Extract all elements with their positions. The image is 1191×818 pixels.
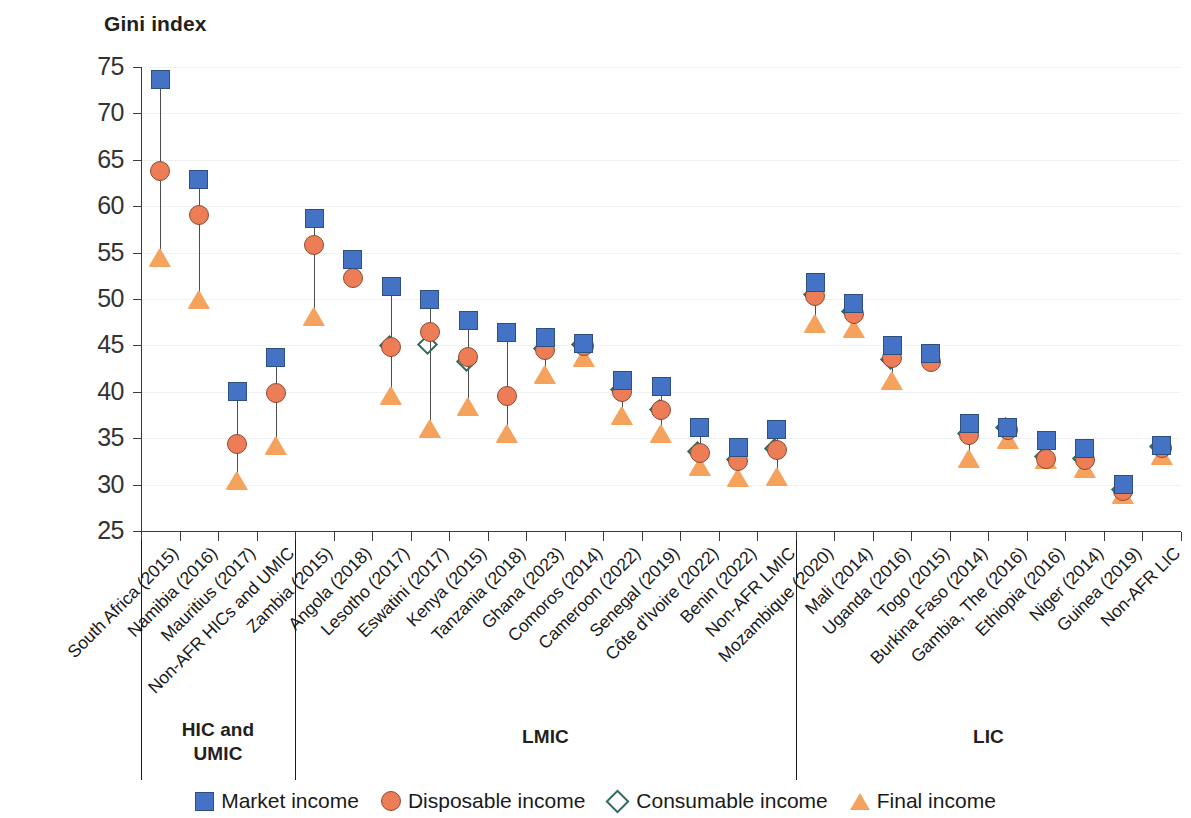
- x-tick-mark: [218, 532, 219, 541]
- legend-triangle-icon: [850, 793, 870, 810]
- marker-disposable-income: [227, 434, 247, 454]
- marker-market-income: [1152, 436, 1171, 455]
- marker-market-income: [921, 344, 940, 363]
- y-tick-label: 70: [84, 100, 124, 125]
- marker-market-income: [1114, 475, 1133, 494]
- legend-diamond-icon: [606, 789, 630, 813]
- marker-disposable-income: [458, 347, 478, 367]
- x-tick-mark: [334, 532, 335, 541]
- x-tick-mark: [719, 532, 720, 541]
- y-tick-label: 25: [84, 518, 124, 543]
- marker-market-income: [151, 70, 170, 89]
- marker-market-income: [960, 414, 979, 433]
- y-tick-label: 35: [84, 425, 124, 450]
- marker-disposable-income: [651, 400, 671, 420]
- x-tick-mark: [372, 532, 373, 541]
- gridline: [142, 160, 1181, 161]
- marker-final-income: [149, 248, 171, 267]
- marker-market-income: [228, 382, 247, 401]
- y-tick-mark: [133, 392, 142, 393]
- marker-final-income: [419, 419, 441, 438]
- marker-final-income: [188, 290, 210, 309]
- y-tick-mark: [133, 438, 142, 439]
- x-tick-mark: [911, 532, 912, 541]
- x-tick-mark: [180, 532, 181, 541]
- connector-line: [314, 218, 315, 316]
- gridline: [142, 253, 1181, 254]
- x-tick-mark: [680, 532, 681, 541]
- marker-market-income: [1037, 431, 1056, 450]
- marker-market-income: [844, 294, 863, 313]
- marker-disposable-income: [1036, 449, 1056, 469]
- connector-line: [507, 332, 508, 433]
- y-tick-mark: [133, 67, 142, 68]
- marker-final-income: [457, 397, 479, 416]
- x-tick-mark: [1104, 532, 1105, 541]
- marker-market-income: [420, 290, 439, 309]
- y-tick-label: 45: [84, 332, 124, 357]
- marker-final-income: [380, 386, 402, 405]
- y-tick-label: 75: [84, 54, 124, 79]
- gridline: [142, 299, 1181, 300]
- marker-disposable-income: [690, 443, 710, 463]
- marker-disposable-income: [266, 383, 286, 403]
- chart-root: Gini index 2530354045505560657075 South …: [0, 0, 1191, 818]
- marker-market-income: [690, 418, 709, 437]
- y-tick-mark: [133, 485, 142, 486]
- x-tick-mark: [449, 532, 450, 541]
- x-tick-mark: [1181, 532, 1182, 541]
- x-tick-mark: [411, 532, 412, 541]
- y-tick-mark: [133, 160, 142, 161]
- x-tick-mark: [950, 532, 951, 541]
- marker-final-income: [958, 449, 980, 468]
- marker-disposable-income: [420, 322, 440, 342]
- marker-market-income: [459, 311, 478, 330]
- marker-final-income: [650, 424, 672, 443]
- marker-disposable-income: [150, 161, 170, 181]
- legend-label: Final income: [877, 789, 996, 813]
- gridline: [142, 345, 1181, 346]
- marker-disposable-income: [189, 205, 209, 225]
- x-tick-mark: [988, 532, 989, 541]
- legend-label: Consumable income: [636, 789, 827, 813]
- marker-market-income: [806, 273, 825, 292]
- marker-market-income: [767, 420, 786, 439]
- x-tick-mark: [642, 532, 643, 541]
- legend-circle-icon: [381, 791, 401, 811]
- marker-disposable-income: [767, 440, 787, 460]
- marker-market-income: [536, 328, 555, 347]
- y-tick-mark: [133, 299, 142, 300]
- marker-market-income: [382, 277, 401, 296]
- connector-line: [199, 179, 200, 300]
- gridline: [142, 206, 1181, 207]
- y-tick-mark: [133, 113, 142, 114]
- x-tick-mark: [257, 532, 258, 541]
- group-label: LIC: [796, 725, 1181, 749]
- x-tick-mark: [834, 532, 835, 541]
- gridline: [142, 113, 1181, 114]
- marker-final-income: [611, 406, 633, 425]
- marker-market-income: [883, 336, 902, 355]
- marker-final-income: [265, 436, 287, 455]
- marker-market-income: [266, 348, 285, 367]
- x-axis-line: [141, 531, 1181, 532]
- y-tick-label: 55: [84, 240, 124, 265]
- marker-final-income: [804, 314, 826, 333]
- marker-final-income: [534, 365, 556, 384]
- marker-disposable-income: [343, 268, 363, 288]
- marker-final-income: [766, 467, 788, 486]
- marker-disposable-income: [381, 337, 401, 357]
- marker-market-income: [189, 170, 208, 189]
- x-tick-mark: [488, 532, 489, 541]
- marker-market-income: [343, 250, 362, 269]
- marker-final-income: [226, 471, 248, 490]
- marker-market-income: [574, 334, 593, 353]
- gridline: [142, 485, 1181, 486]
- marker-final-income: [881, 371, 903, 390]
- marker-market-income: [1075, 439, 1094, 458]
- group-label: HIC andUMIC: [141, 718, 295, 766]
- marker-market-income: [729, 438, 748, 457]
- marker-market-income: [305, 209, 324, 228]
- x-tick-mark: [603, 532, 604, 541]
- x-tick-mark: [757, 532, 758, 541]
